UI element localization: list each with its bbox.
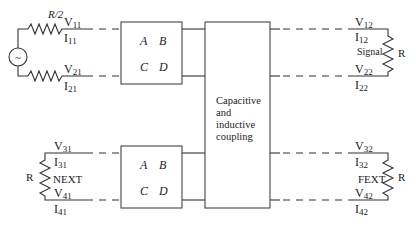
abcd-block-bottom: A B C D (121, 146, 182, 208)
label-v41: V41 (54, 186, 72, 201)
ac-source: ~ (9, 29, 28, 76)
label-v11: V11 (64, 15, 81, 30)
resistor-signal-label: R (398, 47, 406, 59)
ac-source-icon: ~ (15, 51, 21, 63)
label-v22: V22 (355, 62, 373, 77)
label-i22: I22 (355, 78, 368, 93)
label-i21: I21 (64, 79, 77, 94)
next-label: NEXT (53, 173, 83, 185)
label-i12: I12 (355, 30, 368, 45)
abcd-bottom-c: C (140, 184, 149, 198)
label-i32: I32 (355, 155, 368, 170)
resistor-fext-label: R (398, 171, 406, 183)
label-v32: V32 (355, 139, 373, 154)
abcd-top-c: C (140, 60, 149, 74)
abcd-top-b: B (159, 34, 167, 48)
label-v42: V42 (355, 186, 373, 201)
label-i42: I42 (355, 202, 368, 217)
label-v21: V21 (64, 62, 82, 77)
resistor-next-label: R (26, 171, 34, 183)
crosstalk-diagram: ~ R/2 V11 I11 V21 I21 A B C D A B C D (0, 0, 416, 226)
abcd-top-d: D (158, 60, 168, 74)
label-i11: I11 (64, 31, 77, 46)
abcd-bottom-a: A (139, 158, 148, 172)
coupling-label-line-4: coupling (216, 131, 253, 142)
coupling-label-line-3: inductive (216, 119, 255, 130)
label-v31: V31 (54, 139, 72, 154)
signal-label: Signal (357, 46, 383, 57)
fext-label: FEXT (358, 173, 386, 185)
label-i41: I41 (54, 202, 67, 217)
abcd-block-top: A B C D (121, 22, 182, 84)
coupling-label-line-2: and (216, 107, 232, 118)
label-i31: I31 (54, 155, 67, 170)
abcd-bottom-d: D (158, 184, 168, 198)
coupling-block: Capacitive and inductive coupling (205, 22, 270, 208)
label-v12: V12 (355, 15, 373, 30)
abcd-top-a: A (139, 34, 148, 48)
coupling-label-line-1: Capacitive (216, 95, 261, 106)
resistor-label-r-half: R/2 (47, 8, 64, 20)
abcd-bottom-b: B (159, 158, 167, 172)
